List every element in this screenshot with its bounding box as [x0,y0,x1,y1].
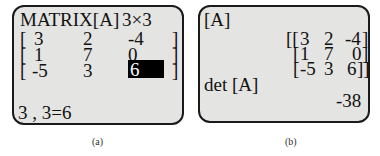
right-bracket-icon: ] [172,61,178,80]
cell-status-line: 3 , 3=6 [18,103,71,122]
output-cell-3-2: 3 [324,59,334,78]
output-cell-3-3: 6 [347,59,357,78]
home-screen: [A] [[ 3 2 -4 ] [ 1 7 0 ] [ -5 3 6 ]] de… [198,5,370,123]
matrix-cell-3-2[interactable]: 3 [83,61,93,80]
matrix-cell-3-3-selected[interactable]: 6 [128,60,164,78]
matrix-editor-screen: MATRIX[A] 3×3 [ [ [ ] ] ] 3 2 -4 1 7 0 -… [12,5,184,125]
matrix-title: MATRIX[A] [20,10,119,29]
matrix-cell-3-1[interactable]: -5 [32,61,48,80]
caption-b: (b) [285,136,297,147]
caption-a: (a) [92,136,103,147]
matrix-output-brackets: ]] [357,59,370,78]
left-bracket-icon: [ [20,61,26,80]
matrix-label: [A] [204,10,230,29]
matrix-output-bracket: [ [293,59,299,78]
matrix-dimensions: 3×3 [122,10,152,29]
determinant-result: -38 [336,91,361,110]
determinant-command: det [A] [204,75,258,94]
output-cell-3-1: -5 [300,59,316,78]
